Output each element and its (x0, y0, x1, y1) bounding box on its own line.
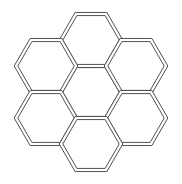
honeycomb-figure (0, 0, 182, 184)
honeycomb-diagram (0, 0, 182, 184)
